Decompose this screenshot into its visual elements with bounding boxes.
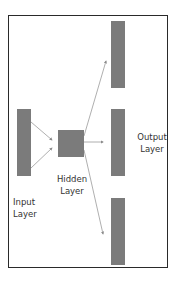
output-layer-label: Output Layer — [136, 131, 168, 155]
input-layer-label-line1: Input — [13, 196, 37, 208]
output-layer-node-top — [111, 21, 125, 88]
input-layer-node — [17, 109, 31, 176]
input-layer-label: Input Layer — [13, 196, 37, 220]
output-layer-node-bottom — [111, 198, 125, 265]
output-layer-node-middle — [111, 109, 125, 176]
input-layer-label-line2: Layer — [13, 208, 37, 220]
edge-hidden-output-top — [84, 61, 106, 136]
hidden-layer-node — [58, 130, 84, 157]
edge-input-hidden-lower — [31, 148, 52, 168]
output-layer-label-line2: Layer — [136, 143, 168, 155]
edge-input-hidden-upper — [31, 122, 52, 140]
hidden-layer-label: Hidden Layer — [55, 173, 89, 197]
hidden-layer-label-line2: Layer — [55, 185, 89, 197]
hidden-layer-label-line1: Hidden — [55, 173, 89, 185]
output-layer-label-line1: Output — [136, 131, 168, 143]
